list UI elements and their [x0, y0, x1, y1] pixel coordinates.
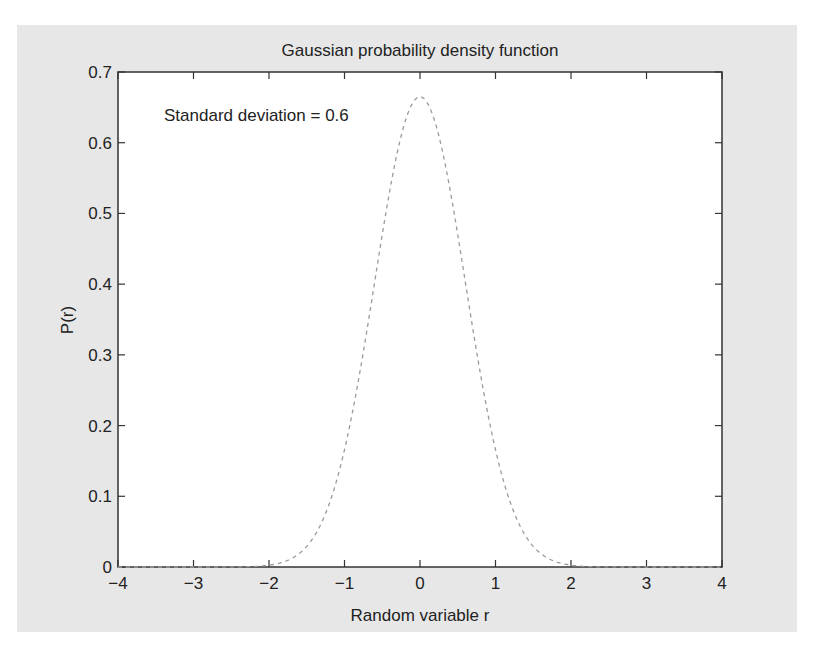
x-axis-label: Random variable r [351, 606, 490, 625]
y-axis-label: P(r) [58, 306, 77, 334]
y-tick-label: 0.3 [88, 346, 112, 365]
y-tick-label: 0 [103, 558, 112, 577]
y-tick-label: 0.1 [88, 487, 112, 506]
plot-area [118, 72, 722, 567]
x-tick-label: −2 [259, 574, 278, 593]
x-tick-label: 1 [491, 574, 500, 593]
y-tick-label: 0.4 [88, 275, 112, 294]
y-tick-label: 0.6 [88, 134, 112, 153]
annotation-std-dev: Standard deviation = 0.6 [164, 106, 349, 125]
x-tick-label: −1 [335, 574, 354, 593]
y-tick-label: 0.7 [88, 63, 112, 82]
chart: Gaussian probability density function −4… [0, 0, 813, 648]
x-tick-label: 4 [717, 574, 726, 593]
chart-title: Gaussian probability density function [282, 41, 559, 60]
x-tick-label: −3 [184, 574, 203, 593]
y-tick-label: 0.2 [88, 417, 112, 436]
x-tick-label: 0 [415, 574, 424, 593]
y-tick-label: 0.5 [88, 204, 112, 223]
x-tick-label: 2 [566, 574, 575, 593]
x-tick-label: 3 [642, 574, 651, 593]
